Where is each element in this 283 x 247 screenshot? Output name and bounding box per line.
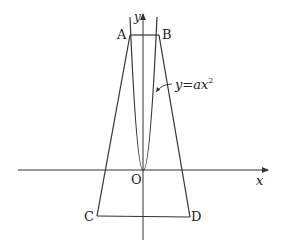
y-axis-label: y xyxy=(134,11,141,23)
point-b-label: B xyxy=(162,28,172,41)
point-d-label: D xyxy=(191,210,201,223)
origin-label: O xyxy=(131,173,142,186)
segment-cd xyxy=(97,216,190,217)
segment-ac xyxy=(97,35,130,216)
curve-label-leader xyxy=(156,84,172,92)
curve-equation-exponent: 2 xyxy=(208,76,213,85)
parabola-trapezoid-diagram: A B C D O x y y=ax2 xyxy=(0,0,283,247)
point-c-label: C xyxy=(84,210,94,223)
x-axis-label: x xyxy=(256,174,263,187)
diagram-canvas xyxy=(0,0,283,247)
curve-equation-text: y=ax xyxy=(175,77,208,92)
point-a-label: A xyxy=(117,28,126,41)
segment-bd xyxy=(159,35,190,217)
curve-equation-label: y=ax2 xyxy=(175,77,213,91)
